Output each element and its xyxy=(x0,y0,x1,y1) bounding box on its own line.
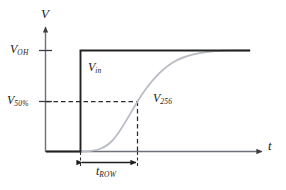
signal-label-v-in: Vin xyxy=(88,61,102,73)
measurement-label-t-row: tROW xyxy=(96,165,116,177)
x-axis-label: t xyxy=(268,139,272,152)
y-tick-label-v-oh-sub: OH xyxy=(17,48,28,57)
y-axis-label: V xyxy=(41,7,49,20)
y-tick-label-v-50-percent-sub: 50% xyxy=(14,99,28,108)
signal-label-v-256-sub: 256 xyxy=(160,97,172,106)
measurement-label-t-row-sub: ROW xyxy=(99,170,116,179)
y-tick-label-v-oh: VOH xyxy=(10,43,29,55)
signal-label-v-in-sub: in xyxy=(95,66,101,75)
y-tick-label-v-50-percent: V50% xyxy=(7,94,29,106)
signal-label-v-256: V256 xyxy=(153,92,172,104)
voltage-vs-time-diagram: V t VOH V50% Vin V256 tROW xyxy=(0,0,286,190)
guide-lines xyxy=(46,102,138,153)
diagram-canvas xyxy=(0,0,286,190)
axis-group xyxy=(46,27,263,152)
